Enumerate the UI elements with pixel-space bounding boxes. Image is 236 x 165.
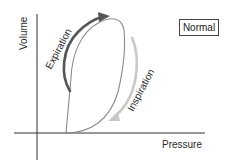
inspiration-label: Inspiration: [125, 67, 156, 113]
expiration-arrow: [64, 17, 102, 91]
y-axis-label: Volume: [18, 16, 29, 50]
x-axis-label: Pressure: [162, 139, 202, 150]
normal-legend-badge: Normal: [179, 19, 219, 36]
expiration-label: Expiration: [43, 27, 74, 71]
inspiration-arrowhead-icon: [108, 112, 120, 121]
legend-label: Normal: [183, 22, 215, 33]
